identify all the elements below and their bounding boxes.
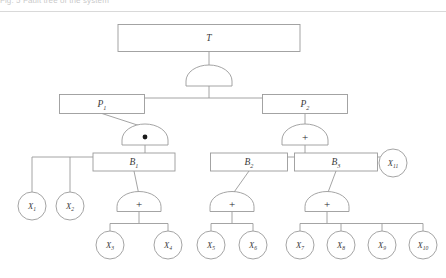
gate-blank-shape	[186, 65, 232, 86]
and-gate-dot-icon	[143, 135, 148, 140]
or-gate-plus-icon: +	[136, 198, 142, 210]
or-gate-plus-icon: +	[229, 198, 235, 210]
or-gate-plus-icon: +	[302, 131, 308, 143]
gate-and-shape	[122, 124, 168, 145]
node-label: T	[206, 33, 212, 43]
fault-tree-figure: Fig. 5 Fault tree of the system ++++TP1P…	[0, 0, 446, 278]
or-gate-plus-icon: +	[324, 198, 330, 210]
fault-tree-canvas: ++++TP1P2B1B2B3X11X1X2X3X4X5X6X7X8X9X10	[0, 0, 446, 278]
